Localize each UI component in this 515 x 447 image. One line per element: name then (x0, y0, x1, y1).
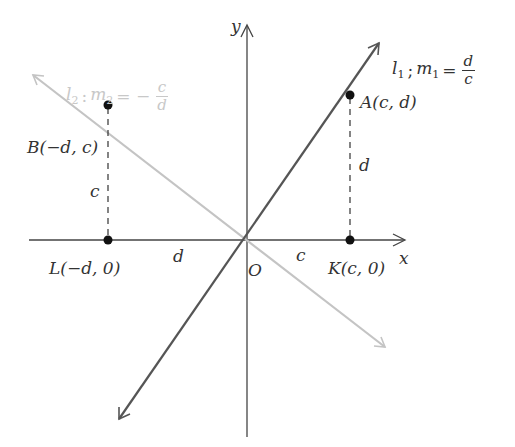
x-axis-label: x (399, 250, 409, 267)
point-K (346, 236, 355, 245)
l2-slope-fraction: c d (155, 80, 169, 113)
line-l2 (33, 75, 385, 347)
l1-equals: = (442, 62, 456, 79)
y-axis (241, 25, 253, 437)
l2-separator: : (81, 88, 87, 105)
point-L-label: L(−d, 0) (49, 260, 120, 277)
l2-slope-name: m2 (90, 86, 113, 106)
segment-label-B-height: c (90, 183, 100, 200)
l1-equation-label: l1 ; m1 = d c (392, 54, 475, 87)
origin-label: O (248, 262, 262, 279)
segment-label-A-height: d (359, 157, 370, 174)
l1-slope-numerator: d (462, 54, 476, 71)
l1-slope-denominator: c (462, 71, 474, 87)
l1-slope-fraction: d c (462, 54, 476, 87)
l2-name: l2 (66, 86, 78, 106)
point-A (346, 91, 355, 100)
point-K-label: K(c, 0) (328, 260, 385, 277)
l2-slope-numerator: c (156, 80, 168, 97)
l2-equals: = − (116, 88, 150, 105)
l2-slope-denominator: d (155, 97, 169, 113)
l1-separator: ; (407, 62, 413, 79)
l1-name: l1 (392, 60, 404, 80)
point-B-label: B(−d, c) (27, 139, 98, 156)
point-L (104, 236, 113, 245)
segment-label-OL-length: d (173, 248, 184, 265)
l1-slope-name: m1 (416, 60, 439, 80)
point-A-label: A(c, d) (360, 94, 417, 111)
l2-equation-label: l2 : m2 = − c d (66, 80, 169, 113)
y-axis-label: y (231, 18, 241, 35)
segment-label-OK-length: c (296, 247, 306, 264)
